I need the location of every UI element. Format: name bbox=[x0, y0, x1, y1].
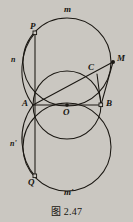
figure-caption: 图 2.47 bbox=[0, 203, 133, 218]
label-m: m bbox=[64, 5, 71, 14]
marker-M-dot bbox=[111, 60, 115, 64]
label-point-B: B bbox=[106, 99, 112, 108]
label-n: n bbox=[11, 56, 15, 64]
segment-AM bbox=[33, 62, 113, 105]
figure-container: m P n M C A O B n' Q m' 图 2.47 bbox=[0, 0, 133, 222]
label-n-prime: n' bbox=[10, 140, 17, 148]
label-point-A: A bbox=[22, 99, 28, 108]
label-point-Q: Q bbox=[28, 178, 35, 187]
label-point-P: P bbox=[30, 22, 36, 31]
point-markers bbox=[33, 31, 115, 178]
label-point-M: M bbox=[117, 54, 125, 63]
marker-P-square bbox=[33, 31, 37, 35]
marker-B-square bbox=[99, 103, 103, 107]
label-center-O: O bbox=[63, 108, 70, 117]
label-m-prime: m' bbox=[64, 188, 74, 197]
label-point-C: C bbox=[88, 63, 94, 72]
